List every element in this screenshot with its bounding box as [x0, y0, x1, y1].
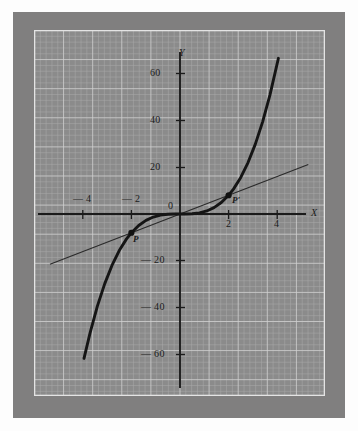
y-tick-label-20: 20: [150, 162, 161, 172]
point-P-label: P: [133, 235, 139, 244]
y-tick-label-60: 60: [150, 68, 161, 78]
y-axis-label: Y: [179, 48, 185, 58]
plot-svg: [34, 30, 325, 396]
x-tick-label-4: 4: [274, 219, 279, 229]
x-tick-label-2: 2: [226, 219, 231, 229]
point-P-prime-label: P′: [232, 196, 241, 205]
graph-figure: Y X 0 60 40 20 — 20 — 40 — 60 — 4 — 2 2 …: [0, 0, 358, 431]
point-P-prime-marker: [226, 192, 232, 198]
y-tick-label-minus-20: — 20: [141, 255, 165, 265]
x-axis-label: X: [311, 208, 317, 218]
y-tick-label-minus-60: — 60: [141, 349, 165, 359]
x-tick-label-minus-2: — 2: [122, 194, 140, 204]
y-tick-label-40: 40: [150, 115, 161, 125]
origin-label: 0: [168, 201, 173, 211]
y-tick-label-minus-40: — 40: [141, 302, 165, 312]
x-tick-label-minus-4: — 4: [73, 194, 91, 204]
graph-paper: [34, 30, 325, 396]
